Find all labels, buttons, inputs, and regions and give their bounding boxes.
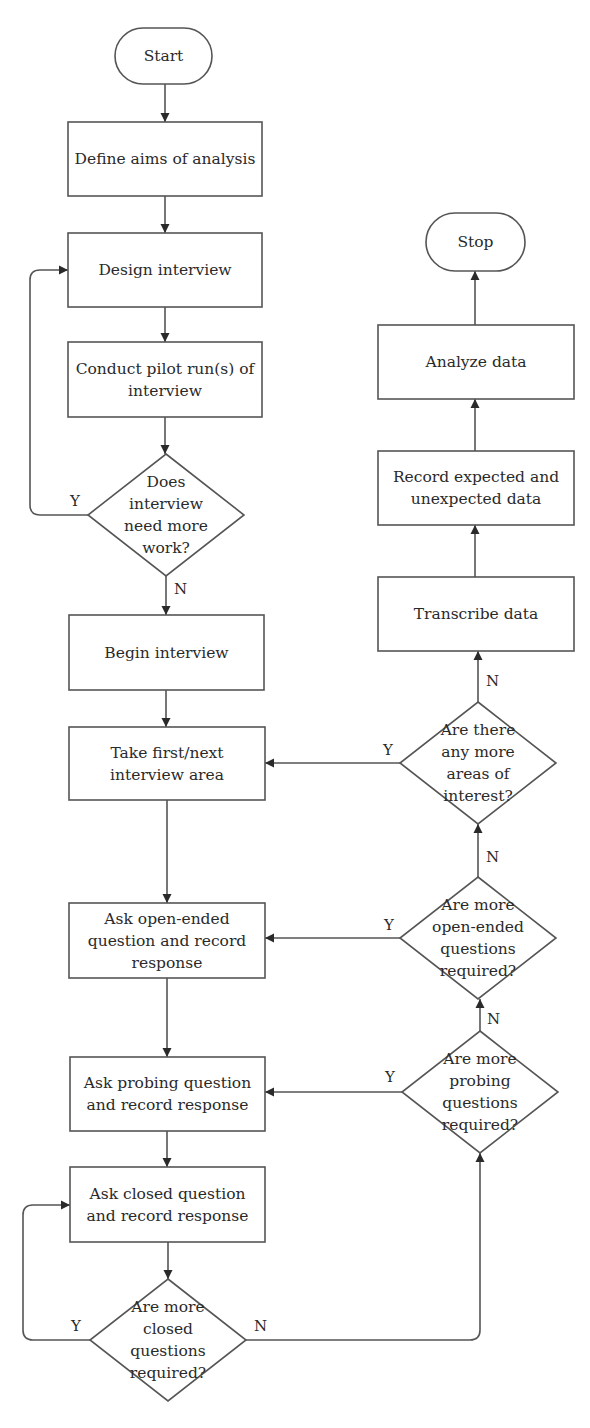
node-label-record: Record expected and unexpected data [382,451,570,525]
node-label-moreclosed: Are more closed questions required? [115,1291,220,1389]
edge-label-no: N [487,1010,500,1028]
node-label-begin: Begin interview [73,615,260,690]
node-label-moreareas: Are there any more areas of interest? [425,714,530,812]
edge-label-no: N [486,848,499,866]
node-label-transcribe: Transcribe data [382,577,570,651]
connector-moreclosed-to-moreprobe [246,1153,480,1340]
edge-label-no: N [486,672,499,690]
edge-label-no: N [254,1317,267,1335]
node-label-moreprobe: Are more probing questions required? [427,1043,532,1141]
node-label-start: Start [119,28,208,84]
node-label-pilot: Conduct pilot run(s) of interview [72,342,258,417]
node-label-analyze: Analyze data [382,325,570,399]
node-label-define: Define aims of analysis [72,122,258,196]
node-label-design: Design interview [72,233,258,307]
node-label-closedq: Ask closed question and record response [74,1167,261,1242]
node-label-probeq: Ask probing question and record response [74,1057,261,1131]
node-label-stop: Stop [430,213,521,271]
node-label-take: Take first/next interview area [73,727,261,800]
edge-label-yes: Y [385,1068,395,1086]
edge-label-yes: Y [71,1317,81,1335]
edge-label-yes: Y [383,741,393,759]
edge-label-yes: Y [384,916,394,934]
edge-label-no: N [174,580,187,598]
node-label-openq: Ask open-ended question and record respo… [73,903,261,978]
node-label-morework: Does interview need more work? [113,466,218,564]
edge-label-yes: Y [70,492,80,510]
node-label-moreopen: Are more open-ended questions required? [425,889,530,987]
